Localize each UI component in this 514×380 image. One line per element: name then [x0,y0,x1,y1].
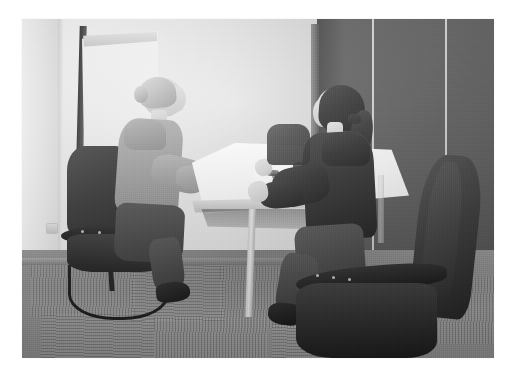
woman-right-shoulder [322,132,370,166]
woman-right-hair-tie [348,114,361,124]
woman-left-hair-bun [134,86,147,103]
photo-page [0,0,514,380]
chair-left-stud [98,231,101,234]
photograph [22,19,494,358]
chair-right-seat [296,283,438,358]
chair-right-stud [316,274,319,277]
wall-outlet [47,224,57,233]
chair-left-stud [81,230,84,233]
chair-right-stud [348,278,351,281]
chair-right-stud [332,276,335,279]
wall-corner [22,19,60,277]
chair-far-backrest [267,124,309,165]
woman-left-shoulder [124,119,166,150]
